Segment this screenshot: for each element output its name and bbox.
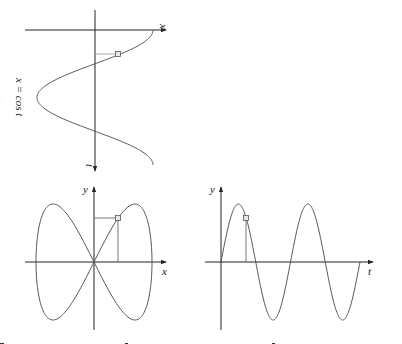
br-t-label: t: [368, 265, 372, 277]
br-y-label: y: [209, 183, 215, 195]
figure-canvas: x t x = cos t y x y t: [0, 0, 402, 344]
bl-x-label: x: [161, 265, 167, 277]
bottom-left-panel: y x: [25, 183, 167, 330]
top-t-label: t: [84, 164, 96, 168]
bottom-right-panel: y t: [205, 183, 373, 330]
top-x-label: x: [158, 23, 170, 29]
br-point-marker: [244, 216, 249, 221]
bl-y-label: y: [82, 183, 88, 195]
top-point-marker: [116, 52, 121, 57]
bl-point-marker: [116, 216, 121, 221]
top-panel: x t x = cos t: [14, 10, 170, 171]
equation-label: x = cos t: [14, 77, 26, 117]
